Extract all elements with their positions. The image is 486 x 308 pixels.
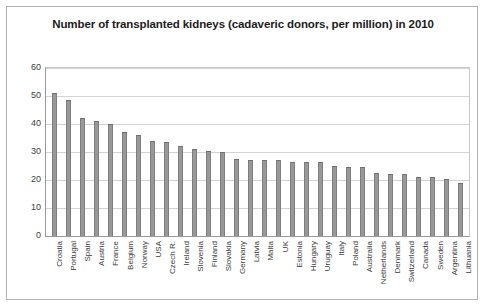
bar-slot <box>328 68 342 236</box>
bar-slot <box>257 68 271 236</box>
x-axis-slot: Canada <box>412 239 426 308</box>
bar-slot <box>454 68 468 236</box>
bar[interactable] <box>444 179 449 236</box>
bar[interactable] <box>416 177 421 236</box>
x-axis-slot: Lithuania <box>455 239 469 308</box>
bar[interactable] <box>304 162 309 236</box>
x-axis-slot: Germany <box>229 239 243 308</box>
bar-slot <box>215 68 229 236</box>
bar[interactable] <box>80 118 85 236</box>
plot-area <box>45 67 470 237</box>
x-axis-slot: Australia <box>356 239 370 308</box>
x-axis-slot: Portugal <box>60 239 74 308</box>
bar[interactable] <box>220 152 225 236</box>
bar-slot <box>47 68 61 236</box>
bar[interactable] <box>234 159 239 236</box>
x-axis-slot: Slovakia <box>215 239 229 308</box>
x-axis-slot: Austria <box>88 239 102 308</box>
y-axis-tick-label: 60 <box>31 62 41 72</box>
bar[interactable] <box>122 132 127 236</box>
bar-slot <box>426 68 440 236</box>
bar[interactable] <box>66 100 71 236</box>
bar[interactable] <box>206 151 211 236</box>
bar-slot <box>145 68 159 236</box>
bar-slot <box>75 68 89 236</box>
x-axis-slot: Ireland <box>173 239 187 308</box>
bar[interactable] <box>360 167 365 236</box>
bar[interactable] <box>248 160 253 236</box>
x-axis-slot: Slovenia <box>187 239 201 308</box>
x-axis-tick-label: Lithuania <box>465 241 473 273</box>
bar-slot <box>89 68 103 236</box>
bar[interactable] <box>164 142 169 236</box>
x-axis-slot: Italy <box>328 239 342 308</box>
x-axis-slot: Switzerland <box>398 239 412 308</box>
x-axis-slot: Spain <box>74 239 88 308</box>
bar[interactable] <box>150 141 155 236</box>
bar[interactable] <box>136 135 141 236</box>
x-axis-slot: Czech R. <box>159 239 173 308</box>
bar-slot <box>103 68 117 236</box>
x-axis-slot: Norway <box>131 239 145 308</box>
bar[interactable] <box>332 166 337 236</box>
bar-slot <box>272 68 286 236</box>
bar-slot <box>440 68 454 236</box>
bar-slot <box>398 68 412 236</box>
x-axis-slot: Argentina <box>441 239 455 308</box>
x-axis-slot: Poland <box>342 239 356 308</box>
y-axis-tick-label: 20 <box>31 174 41 184</box>
bar-slot <box>356 68 370 236</box>
bar[interactable] <box>318 162 323 236</box>
bar[interactable] <box>108 124 113 236</box>
bar[interactable] <box>178 146 183 236</box>
bar-slot <box>187 68 201 236</box>
x-axis-slot: Hungary <box>300 239 314 308</box>
y-axis: 6050403020100 <box>15 61 41 243</box>
bar[interactable] <box>276 160 281 236</box>
bar-slot <box>384 68 398 236</box>
y-axis-tick-label: 0 <box>36 230 41 240</box>
bar-slot <box>117 68 131 236</box>
x-axis-slot: Finland <box>201 239 215 308</box>
bar[interactable] <box>94 121 99 236</box>
x-axis-slot: Denmark <box>384 239 398 308</box>
x-axis-slot: USA <box>145 239 159 308</box>
y-axis-tick-label: 50 <box>31 90 41 100</box>
bar[interactable] <box>402 174 407 236</box>
bar[interactable] <box>262 160 267 236</box>
bar-series <box>46 68 469 236</box>
bar-slot <box>131 68 145 236</box>
bar-slot <box>61 68 75 236</box>
bar-slot <box>201 68 215 236</box>
bar[interactable] <box>374 173 379 236</box>
bar-slot <box>300 68 314 236</box>
bar-slot <box>314 68 328 236</box>
x-axis-slot: Belgium <box>116 239 130 308</box>
bar[interactable] <box>430 177 435 236</box>
x-axis-slot: Malta <box>257 239 271 308</box>
chart-container: Number of transplanted kidneys (cadaveri… <box>6 6 478 300</box>
bar-slot <box>286 68 300 236</box>
bar-slot <box>412 68 426 236</box>
bar-slot <box>243 68 257 236</box>
bar[interactable] <box>52 93 57 236</box>
bar-slot <box>229 68 243 236</box>
bar[interactable] <box>388 174 393 236</box>
bar-slot <box>159 68 173 236</box>
x-axis: CroatiaPortugalSpainAustriaFranceBelgium… <box>45 239 470 308</box>
x-axis-slot: France <box>102 239 116 308</box>
x-axis-slot: Croatia <box>46 239 60 308</box>
bar[interactable] <box>346 167 351 236</box>
x-axis-slot: Latvia <box>243 239 257 308</box>
y-axis-tick-label: 10 <box>31 202 41 212</box>
bar-slot <box>173 68 187 236</box>
x-axis-slot: UK <box>272 239 286 308</box>
x-axis-slot: Netherlands <box>370 239 384 308</box>
x-axis-slot: Uruguay <box>314 239 328 308</box>
y-axis-tick-label: 30 <box>31 146 41 156</box>
bar[interactable] <box>192 149 197 236</box>
bar[interactable] <box>458 183 463 236</box>
bar[interactable] <box>290 162 295 236</box>
x-axis-slot: Estonia <box>286 239 300 308</box>
bar-slot <box>370 68 384 236</box>
